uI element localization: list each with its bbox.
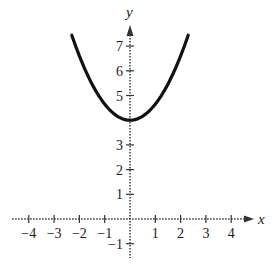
y-tick-label: 6 xyxy=(116,64,123,79)
x-tick-label: −3 xyxy=(47,226,62,241)
y-axis-arrow-icon xyxy=(127,25,134,36)
x-axis xyxy=(12,216,254,223)
x-axis-label: x xyxy=(257,211,265,227)
parabola-chart: −4−3−2−11234−1123567 x y xyxy=(0,0,273,268)
y-tick-label: 5 xyxy=(116,89,123,104)
y-tick-label: 1 xyxy=(116,187,123,202)
y-axis xyxy=(127,25,134,258)
y-tick-label: 7 xyxy=(116,39,123,54)
x-tick-label: −4 xyxy=(21,226,36,241)
y-tick-label: −1 xyxy=(108,237,123,252)
x-tick-label: 3 xyxy=(202,226,209,241)
x-tick-label: 4 xyxy=(228,226,235,241)
axis-ticks: −4−3−2−11234−1123567 xyxy=(21,39,234,252)
y-tick-label: 2 xyxy=(116,163,123,178)
y-tick-label: 3 xyxy=(116,138,123,153)
x-tick-label: 1 xyxy=(152,226,159,241)
x-tick-label: −2 xyxy=(72,226,87,241)
x-tick-label: 2 xyxy=(177,226,184,241)
y-axis-label: y xyxy=(124,4,133,20)
x-axis-arrow-icon xyxy=(244,216,254,223)
